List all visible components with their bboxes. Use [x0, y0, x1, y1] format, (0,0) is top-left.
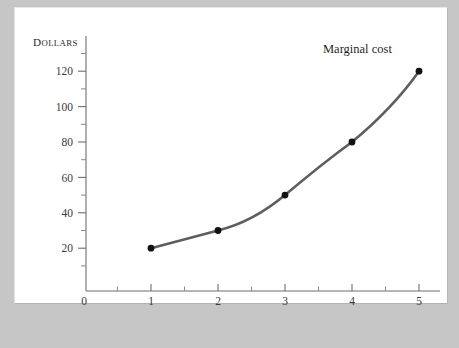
x-tick-label: 5 [416, 295, 422, 305]
x-tick-label: 3 [282, 295, 288, 305]
chart-plot-area: 20 40 60 80 100 120 [15, 8, 449, 305]
data-point [148, 245, 155, 252]
series-annotation-label: Marginal cost [323, 42, 392, 56]
y-tick-label: 60 [62, 172, 74, 184]
y-tick-label: 80 [62, 136, 74, 148]
data-point [349, 139, 356, 146]
y-tick-label: 100 [56, 101, 74, 113]
marginal-cost-line-chart: 20 40 60 80 100 120 [15, 8, 449, 305]
marginal-cost-curve [151, 71, 419, 248]
y-tick-label: 20 [62, 242, 74, 254]
x-axis-minor-ticks [118, 287, 386, 292]
figure-plate: 20 40 60 80 100 120 [14, 7, 448, 304]
x-axis-major-ticks [151, 284, 419, 291]
x-tick-label: 2 [215, 295, 221, 305]
y-axis-tick-labels: 20 40 60 80 100 120 [56, 65, 74, 254]
x-tick-label: 1 [148, 295, 154, 305]
y-axis-title: DOLLARS [33, 36, 78, 48]
data-point [282, 192, 289, 199]
y-tick-label: 120 [56, 65, 74, 77]
y-axis-minor-ticks [81, 54, 86, 266]
y-axis-title-initial: D [33, 36, 41, 48]
x-axis-tick-labels: 0 1 2 3 4 5 [81, 295, 422, 305]
data-point-markers [148, 68, 423, 252]
data-point [215, 227, 222, 234]
y-tick-label: 40 [62, 207, 74, 219]
data-point [416, 68, 423, 75]
x-tick-label: 4 [349, 295, 355, 305]
figure-root: 20 40 60 80 100 120 [0, 0, 459, 348]
caption-band: Figure 6.5 [0, 318, 459, 348]
x-tick-label: 0 [81, 295, 87, 305]
y-axis-title-rest: OLLARS [41, 38, 77, 48]
